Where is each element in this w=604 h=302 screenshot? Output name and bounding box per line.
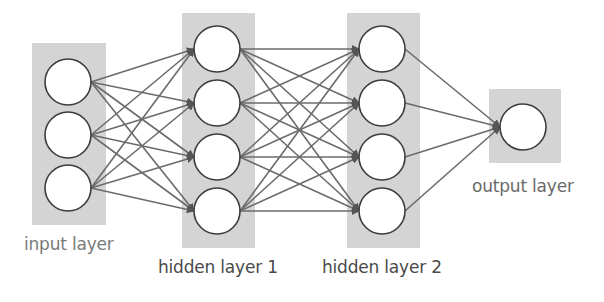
input-layer-nodes [45, 59, 91, 211]
edges-input-to-hidden1 [91, 49, 194, 211]
hidden2-node [359, 134, 405, 180]
input-layer-label: input layer [24, 234, 114, 254]
hidden2-node [359, 80, 405, 126]
input-node [45, 59, 91, 105]
hidden1-node [194, 134, 240, 180]
output-layer-label: output layer [472, 176, 574, 196]
hidden1-node [194, 26, 240, 72]
edges-hidden1-to-hidden2 [240, 49, 359, 211]
hidden-layer-1-label: hidden layer 1 [158, 257, 278, 277]
output-node [500, 104, 546, 150]
input-node [45, 165, 91, 211]
neural-network-diagram [0, 0, 604, 302]
hidden1-node [194, 188, 240, 234]
hidden2-node [359, 188, 405, 234]
hidden1-node [194, 80, 240, 126]
output-layer-nodes [500, 104, 546, 150]
hidden-layer-2-label: hidden layer 2 [322, 257, 442, 277]
input-node [45, 112, 91, 158]
hidden2-node [359, 26, 405, 72]
